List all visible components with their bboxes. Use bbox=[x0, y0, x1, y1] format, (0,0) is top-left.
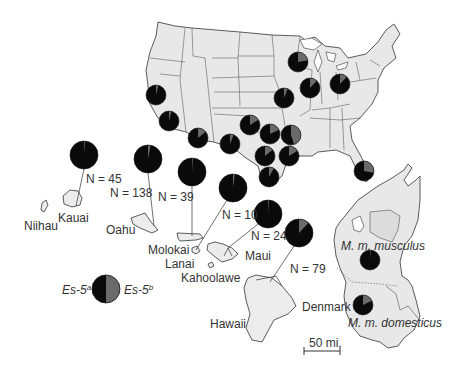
label-kauai: Kauai bbox=[58, 211, 89, 225]
pie-marker bbox=[300, 78, 320, 98]
pie-marker bbox=[285, 219, 313, 247]
pie-marker bbox=[254, 200, 282, 228]
label-oahu: Oahu bbox=[106, 223, 135, 237]
island-kahoolawe bbox=[208, 262, 214, 268]
label-domesticus: M. m. domesticus bbox=[348, 316, 442, 330]
label-lanai: Lanai bbox=[165, 257, 194, 271]
island-molokai bbox=[177, 233, 203, 241]
island-niihau bbox=[41, 200, 48, 212]
label-molokai: Molokai bbox=[148, 243, 189, 257]
pie-marker bbox=[354, 161, 374, 181]
scale-bar: 50 mi. bbox=[304, 336, 342, 355]
legend-pie bbox=[92, 275, 120, 303]
pie-marker bbox=[259, 167, 279, 187]
legend-label-b: Es-5b bbox=[124, 283, 154, 297]
label-hawaii: Hawaii bbox=[210, 317, 246, 331]
pie-marker bbox=[240, 115, 260, 135]
label-musculus: M. m. musculus bbox=[341, 239, 425, 253]
label-kahoolawe: Kahoolawe bbox=[181, 271, 241, 285]
figure: N = 45 N = 138 N = 39 N = 10 N = 24 N = … bbox=[0, 0, 451, 370]
pie-marker bbox=[188, 128, 208, 148]
pie-marker bbox=[220, 134, 240, 154]
pie-marker bbox=[330, 74, 350, 94]
island-maui bbox=[207, 242, 238, 262]
label-denmark: Denmark bbox=[302, 300, 352, 314]
pie-marker bbox=[146, 85, 166, 105]
label-maui: Maui bbox=[245, 249, 271, 263]
pie-marker bbox=[260, 124, 280, 144]
n-label-hawaii: N = 79 bbox=[290, 262, 326, 276]
pie-marker bbox=[178, 158, 206, 186]
pie-marker bbox=[134, 145, 162, 173]
n-label-oahu: N = 138 bbox=[110, 186, 153, 200]
n-label-lanai: N = 10 bbox=[222, 208, 258, 222]
n-label-kauai: N = 45 bbox=[86, 172, 122, 186]
pie-marker bbox=[353, 295, 373, 315]
legend: Es-5a Es-5b bbox=[62, 275, 154, 303]
scale-label: 50 mi. bbox=[309, 336, 342, 350]
pie-marker bbox=[219, 174, 247, 202]
n-label-molokai: N = 39 bbox=[158, 190, 194, 204]
island-hawaii bbox=[244, 275, 296, 342]
legend-label-a: Es-5a bbox=[62, 283, 92, 297]
pie-marker bbox=[274, 88, 294, 108]
pie-marker bbox=[360, 250, 380, 270]
pie-marker bbox=[255, 146, 275, 166]
n-label-maui: N = 24 bbox=[251, 229, 287, 243]
pie-marker bbox=[281, 125, 301, 145]
pie-marker bbox=[279, 146, 299, 166]
pie-marker bbox=[159, 111, 179, 131]
pie-marker bbox=[70, 141, 98, 169]
pie-marker bbox=[288, 52, 308, 72]
label-niihau: Niihau bbox=[24, 219, 58, 233]
